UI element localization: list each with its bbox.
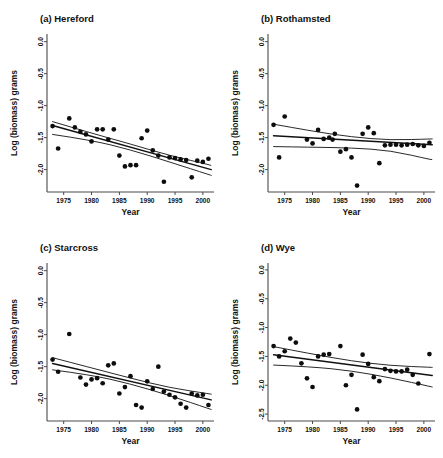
data-point [383,367,388,372]
lower-confidence-band [53,134,212,175]
data-point [145,379,150,384]
data-point [139,136,144,141]
data-point [72,125,77,130]
x-tick-label: 1985 [333,426,348,433]
data-point [167,392,172,397]
x-tick-label: 1980 [305,197,320,204]
y-tick-label: -0.5 [37,297,44,309]
x-tick-label: 2000 [196,426,211,433]
data-point [100,127,105,132]
upper-confidence-band [274,347,433,368]
figure-canvas: (a) Hereford0.0-0.5-1.0-1.5-2.0197519801… [0,0,443,458]
data-point [189,175,194,180]
data-point [84,132,89,137]
data-point [282,114,287,119]
data-point [316,128,321,133]
y-tick-label: -1.0 [37,100,44,112]
data-point [50,124,55,129]
data-point [56,369,61,374]
y-axis-label: Log (biomass) grams [230,70,240,156]
data-point [173,156,178,161]
y-tick-label: -2.0 [37,393,44,405]
data-point [416,381,421,386]
data-point [366,362,371,367]
panel-c-starcross: (c) Starcross0.0-0.5-1.0-1.5-2.019751980… [0,229,221,458]
data-point [184,405,189,410]
data-point [106,137,111,142]
data-point [310,141,315,146]
y-tick-label: -1.0 [258,100,265,112]
y-tick-label: -1.5 [258,132,265,144]
data-point [293,340,298,345]
y-tick-label: -2.0 [37,164,44,176]
regression-line [53,125,212,169]
data-point [321,137,326,142]
x-tick-label: 1985 [112,426,127,433]
data-point [189,391,194,396]
y-tick-label: -1.5 [258,350,265,362]
data-point [178,401,183,406]
plot-d: (d) Wye0.0-0.5-1.0-1.5-2.0-2.51975198019… [221,229,442,458]
y-tick-label: -2.5 [258,408,265,420]
x-tick-label: 1990 [361,426,376,433]
regression-line [53,363,212,399]
x-tick-label: 1995 [389,197,404,204]
data-point [399,143,404,148]
data-point [150,148,155,153]
data-point [106,363,111,368]
x-tick-label: 1995 [168,197,183,204]
data-point [173,395,178,400]
x-tick-label: 1990 [140,197,155,204]
x-tick-label: 1980 [305,426,320,433]
data-point [321,352,326,357]
data-point [271,344,276,349]
x-tick-label: 2000 [417,426,432,433]
x-axis-label: Year [122,207,141,217]
data-point [344,147,349,152]
data-point [316,354,321,359]
data-point [282,349,287,354]
data-point [394,142,399,147]
y-tick-label: -1.0 [37,329,44,341]
data-point [195,393,200,398]
y-tick-label: 0.0 [37,37,44,46]
data-point [410,142,415,147]
data-point [405,142,410,147]
data-point [111,127,116,132]
panel-d-wye: (d) Wye0.0-0.5-1.0-1.5-2.0-2.51975198019… [221,229,442,458]
data-point [327,352,332,357]
data-point [201,160,206,165]
data-point [349,155,354,160]
data-point [134,403,139,408]
x-axis-label: Year [343,436,362,446]
data-point [305,376,310,381]
data-point [162,389,167,394]
data-point [195,158,200,163]
data-point [338,344,343,349]
panel-title: (d) Wye [261,242,295,253]
data-point [355,407,360,412]
data-point [78,375,83,380]
data-point [310,385,315,390]
x-axis-label: Year [343,207,362,217]
data-point [416,143,421,148]
data-point [123,164,128,169]
x-tick-label: 1985 [112,197,127,204]
data-point [377,379,382,384]
data-point [100,381,105,386]
data-point [162,179,167,184]
x-axis-label: Year [122,436,141,446]
data-point [377,161,382,166]
x-tick-label: 1995 [389,426,404,433]
plot-a: (a) Hereford0.0-0.5-1.0-1.5-2.0197519801… [0,0,221,229]
y-tick-label: -1.5 [37,132,44,144]
data-point [338,149,343,154]
data-point [427,140,432,145]
panel-title: (a) Hereford [40,13,94,24]
data-point [89,377,94,382]
y-tick-label: 0.0 [258,37,265,46]
x-tick-label: 1990 [361,197,376,204]
data-point [156,153,161,158]
data-point [139,405,144,410]
data-point [117,153,122,158]
